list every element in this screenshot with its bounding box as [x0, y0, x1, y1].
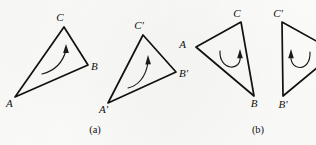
panel-caption-b: (b) — [252, 124, 265, 136]
figure-canvas: A B C A' B' C' (a) — [0, 0, 316, 145]
vertex-label-B: B — [91, 60, 98, 72]
triangle-outline — [108, 35, 176, 103]
rotation-arrow — [42, 44, 69, 74]
rotation-arrow-head — [63, 44, 69, 53]
panel-a-triangle-abc: A B C — [5, 11, 98, 109]
triangle-outline — [282, 22, 316, 96]
vertex-label-C-prime: C' — [134, 19, 144, 31]
panel-b-triangle-a-prime-b-prime-c-prime: C' B' — [273, 7, 316, 110]
panel-b-triangle-abc: A B C — [178, 7, 257, 109]
triangle-outline — [196, 22, 254, 96]
vertex-label-B-prime: B' — [179, 67, 189, 79]
vertex-label-A-prime: A' — [98, 103, 109, 115]
rotation-arrow — [220, 49, 243, 67]
rotation-arrow — [288, 49, 310, 68]
vertex-label-B-prime: B' — [278, 98, 288, 110]
rotation-arrow-head — [288, 49, 294, 58]
vertex-label-A: A — [5, 97, 13, 109]
rotation-arrow-head — [145, 55, 151, 65]
vertex-label-A: A — [178, 38, 186, 50]
vertex-label-B: B — [251, 97, 258, 109]
panel-a-triangle-a-prime-b-prime-c-prime: A' B' C' — [98, 19, 189, 115]
geometry-figure: A B C A' B' C' (a) — [0, 0, 316, 145]
vertex-label-C: C — [233, 7, 241, 19]
rotation-arrow-arc — [291, 52, 310, 68]
rotation-arrow-arc — [220, 51, 240, 67]
vertex-label-C-prime: C' — [273, 7, 283, 19]
rotation-arrow-head — [237, 49, 243, 58]
panel-a: A B C A' B' C' (a) — [5, 11, 189, 136]
rotation-arrow-arc — [128, 62, 148, 88]
panel-caption-a: (a) — [89, 124, 101, 136]
vertex-label-C: C — [56, 11, 64, 23]
rotation-arrow — [128, 55, 151, 88]
panel-b: A B C C' B' (b) — [178, 7, 316, 136]
triangle-outline — [15, 27, 88, 97]
